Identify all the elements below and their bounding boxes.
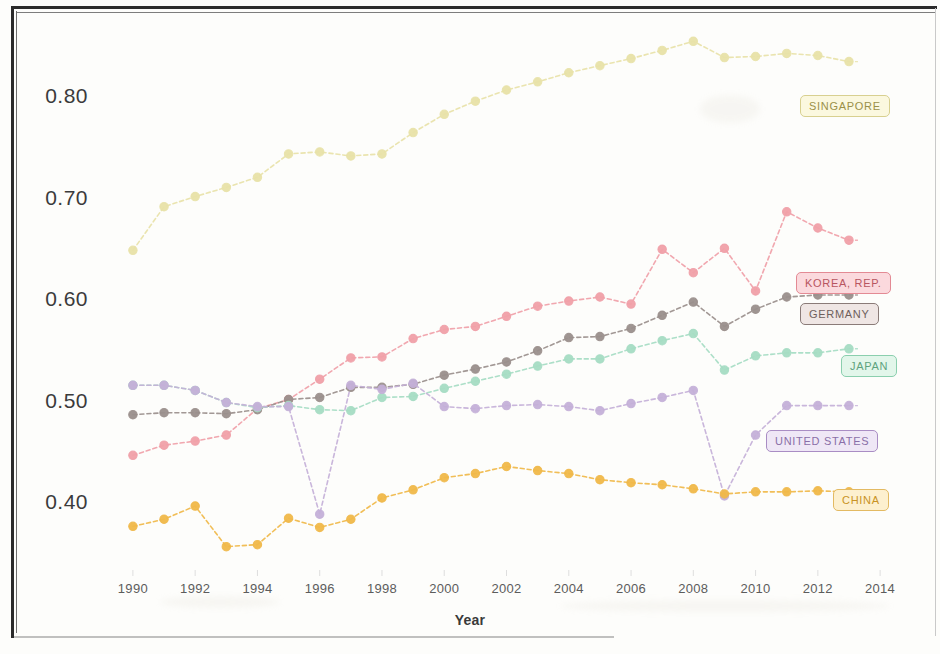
data-point: [378, 385, 386, 393]
data-point: [533, 400, 541, 408]
data-point: [782, 349, 790, 357]
data-point: [720, 490, 728, 498]
data-point: [751, 352, 759, 360]
data-point: [689, 485, 697, 493]
data-point: [751, 287, 759, 295]
data-point: [596, 475, 604, 483]
data-point: [782, 208, 790, 216]
data-point: [502, 312, 510, 320]
y-tick-label: 0.40: [22, 490, 88, 514]
series-label-japan: JAPAN: [841, 355, 897, 377]
data-point: [222, 431, 230, 439]
data-point: [440, 110, 448, 118]
x-tick-label: 1996: [293, 581, 347, 596]
data-point: [689, 386, 697, 394]
data-point: [627, 300, 635, 308]
data-point: [316, 510, 324, 518]
data-point: [627, 345, 635, 353]
data-point: [502, 462, 510, 470]
x-tick-label: 1994: [230, 581, 284, 596]
series-line-4: [133, 383, 849, 514]
data-point: [720, 244, 728, 252]
data-point: [129, 451, 137, 459]
data-point: [658, 481, 666, 489]
x-tick-label: 2004: [542, 581, 596, 596]
data-point: [160, 381, 168, 389]
data-point: [440, 402, 448, 410]
data-point: [378, 150, 386, 158]
data-point: [565, 402, 573, 410]
data-point: [502, 86, 510, 94]
data-point: [440, 371, 448, 379]
x-tick-label: 2014: [853, 581, 907, 596]
data-point: [627, 479, 635, 487]
data-point: [316, 405, 324, 413]
data-point: [502, 358, 510, 366]
x-tick-label: 1998: [355, 581, 409, 596]
data-point: [129, 246, 137, 254]
data-point: [565, 69, 573, 77]
data-point: [347, 515, 355, 523]
data-point: [814, 401, 822, 409]
x-tick-label: 1990: [106, 581, 160, 596]
series-line-5: [133, 466, 849, 546]
data-point: [751, 431, 759, 439]
series-label-germany: GERMANY: [800, 303, 879, 325]
data-point: [751, 52, 759, 60]
data-point: [658, 245, 666, 253]
data-point: [502, 370, 510, 378]
data-point: [191, 192, 199, 200]
data-point: [347, 381, 355, 389]
data-point: [658, 311, 666, 319]
series-line-1: [133, 212, 849, 456]
data-point: [191, 386, 199, 394]
data-point: [565, 355, 573, 363]
x-tick-label: 2000: [417, 581, 471, 596]
data-point: [191, 409, 199, 417]
data-point: [316, 523, 324, 531]
data-point: [378, 353, 386, 361]
data-point: [347, 406, 355, 414]
data-point: [533, 466, 541, 474]
data-point: [596, 355, 604, 363]
data-point: [565, 333, 573, 341]
x-tick-label: 2008: [666, 581, 720, 596]
data-point: [689, 268, 697, 276]
y-tick-label: 0.70: [22, 186, 88, 210]
data-point: [160, 202, 168, 210]
data-point: [814, 487, 822, 495]
y-tick-label: 0.80: [22, 84, 88, 108]
data-point: [814, 51, 822, 59]
data-point: [471, 377, 479, 385]
data-point: [658, 336, 666, 344]
data-point: [533, 347, 541, 355]
data-point: [533, 78, 541, 86]
data-point: [565, 297, 573, 305]
data-point: [222, 398, 230, 406]
data-point: [129, 411, 137, 419]
data-point: [378, 494, 386, 502]
x-tick-label: 2012: [791, 581, 845, 596]
data-point: [160, 441, 168, 449]
data-point: [565, 469, 573, 477]
line-chart-canvas: [0, 0, 940, 654]
data-point: [347, 152, 355, 160]
data-point: [409, 334, 417, 342]
data-point: [471, 97, 479, 105]
data-point: [160, 409, 168, 417]
data-point: [596, 61, 604, 69]
data-point: [191, 502, 199, 510]
data-point: [222, 542, 230, 550]
data-point: [720, 322, 728, 330]
data-point: [222, 410, 230, 418]
data-point: [471, 322, 479, 330]
data-point: [627, 399, 635, 407]
data-point: [814, 349, 822, 357]
data-point: [347, 354, 355, 362]
data-point: [471, 469, 479, 477]
data-point: [440, 325, 448, 333]
data-point: [409, 128, 417, 136]
data-point: [658, 393, 666, 401]
series-line-3: [133, 334, 849, 411]
data-point: [782, 293, 790, 301]
